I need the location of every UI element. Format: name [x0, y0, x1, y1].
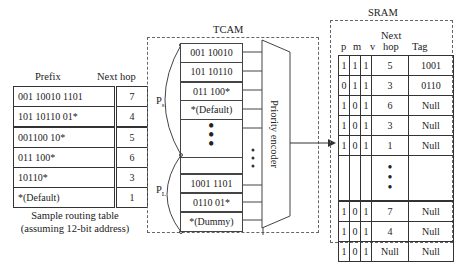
hop-cell: 6	[116, 148, 148, 168]
table-row-ellipsis: •••	[339, 156, 454, 202]
table-row: 11151001	[339, 56, 454, 76]
nexthop-header: Next hop	[97, 72, 136, 83]
hop-cell: 3	[116, 168, 148, 188]
table-row: 101 10110 01*4	[14, 107, 148, 128]
table-row: 1013Null	[339, 116, 454, 136]
tcam-entry: 001 10010	[180, 43, 243, 63]
caption-line-2: (assuming 12-bit address)	[2, 222, 148, 235]
tcam-title: TCAM	[213, 25, 243, 36]
tcam-divider	[180, 157, 243, 158]
sram-table: 11151001 01130110 1016Null 1013Null 1011…	[338, 55, 454, 262]
prefix-cell: 10110*	[14, 168, 116, 188]
group-brackets-icon	[145, 40, 185, 235]
hop-cell: 5	[116, 127, 148, 148]
col-p-header: p	[341, 42, 346, 53]
caption-line-1: Sample routing table	[2, 209, 148, 222]
hop-cell: 4	[116, 107, 148, 128]
table-row: 1011Null	[339, 136, 454, 156]
routing-table: 001 10010 11017 101 10110 01*4 001100 10…	[13, 86, 148, 208]
tcam-entry: 0110 01*	[180, 192, 243, 212]
prefix-cell: 101 10110 01*	[14, 107, 116, 128]
hop-cell: 1	[116, 188, 148, 208]
col-v-header: v	[370, 42, 375, 53]
ellipsis-dots-icon: •••	[372, 156, 409, 202]
table-row: 001100 10*5	[14, 127, 148, 148]
tcam-entry: 011 100*	[180, 81, 243, 101]
table-row: 1014Null	[339, 222, 454, 242]
prefix-cell: *(Default)	[14, 188, 116, 208]
table-row: 101NullNull	[339, 242, 454, 262]
pl-label: PL	[156, 185, 166, 198]
table-row: 10110*3	[14, 168, 148, 188]
col-nexthop-header-1: Next	[381, 31, 401, 42]
sram-title: SRAM	[368, 8, 398, 19]
prefix-cell: 001100 10*	[14, 127, 116, 148]
table-row: 001 10010 11017	[14, 87, 148, 107]
table-row: 011 100*6	[14, 148, 148, 168]
ps-label: Ps	[156, 96, 165, 109]
prefix-cell: 001 10010 1101	[14, 87, 116, 107]
tcam-entry: *(Dummy)	[180, 211, 243, 232]
col-m-header: m	[353, 42, 361, 53]
table-row: 01130110	[339, 76, 454, 96]
col-tag-header: Tag	[412, 42, 428, 53]
table-row: 1016Null	[339, 96, 454, 116]
col-nexthop-header-2: hop	[383, 42, 399, 53]
table-row: 1017Null	[339, 201, 454, 222]
prefix-cell: 011 100*	[14, 148, 116, 168]
ellipsis-dots-icon: •••	[208, 122, 214, 149]
tcam-entry: 101 10110	[180, 62, 243, 82]
hop-cell: 7	[116, 87, 148, 107]
tcam-entry: 1001 1101	[180, 173, 243, 193]
priority-encoder-label: Priority encoder	[269, 100, 280, 168]
prefix-header: Prefix	[35, 72, 61, 83]
table-row: *(Default)1	[14, 188, 148, 208]
routing-table-caption: Sample routing table (assuming 12-bit ad…	[2, 209, 148, 235]
